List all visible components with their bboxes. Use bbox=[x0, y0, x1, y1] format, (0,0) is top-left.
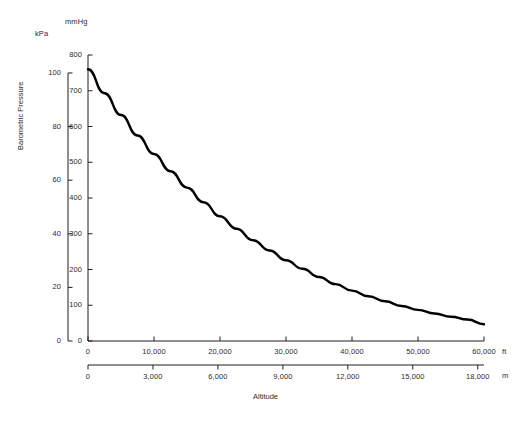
axis-tick-label: 3,000 bbox=[143, 372, 162, 381]
axis-tick-label: 15,000 bbox=[401, 372, 425, 381]
axis-tick-label: 100 bbox=[48, 68, 61, 77]
axis-tick-label: 700 bbox=[69, 86, 82, 95]
axis-tick-label: 300 bbox=[69, 229, 82, 238]
axis-tick-label: 30,000 bbox=[274, 347, 298, 356]
ft-axis bbox=[88, 337, 484, 342]
axis-tick-label: 50,000 bbox=[406, 347, 430, 356]
axis-tick-label: 60,000 bbox=[472, 347, 496, 356]
axis-tick-label: 12,000 bbox=[336, 372, 360, 381]
m-axis bbox=[88, 365, 484, 370]
axis-tick-label: 80 bbox=[52, 122, 61, 131]
axis-tick-label: 18,000 bbox=[466, 372, 490, 381]
plot-svg bbox=[0, 0, 531, 432]
axis-tick-label: 500 bbox=[69, 157, 82, 166]
axis-tick-label: 0 bbox=[86, 347, 90, 356]
axis-tick-label: 6,000 bbox=[208, 372, 227, 381]
axis-tick-label: 9,000 bbox=[273, 372, 292, 381]
axis-tick-label: 10,000 bbox=[142, 347, 166, 356]
axis-tick-label: 20 bbox=[52, 282, 61, 291]
curve-path bbox=[88, 69, 484, 324]
axis-tick-label: 20,000 bbox=[208, 347, 232, 356]
axis-tick-label: 800 bbox=[69, 50, 82, 59]
axis-tick-label: 600 bbox=[69, 122, 82, 131]
axis-tick-label: 60 bbox=[52, 175, 61, 184]
chart-figure: Barometric Pressure mmHg kPa ft m Altitu… bbox=[0, 0, 531, 432]
axis-tick-label: 0 bbox=[78, 336, 82, 345]
axis-tick-label: 0 bbox=[86, 372, 90, 381]
axis-tick-label: 40 bbox=[52, 229, 61, 238]
axis-tick-label: 100 bbox=[69, 300, 82, 309]
axis-tick-label: 0 bbox=[57, 336, 61, 345]
mmhg-axis bbox=[88, 55, 93, 341]
axis-tick-label: 40,000 bbox=[340, 347, 364, 356]
axis-tick-label: 200 bbox=[69, 265, 82, 274]
pressure-curve bbox=[88, 69, 484, 324]
axis-tick-label: 400 bbox=[69, 193, 82, 202]
